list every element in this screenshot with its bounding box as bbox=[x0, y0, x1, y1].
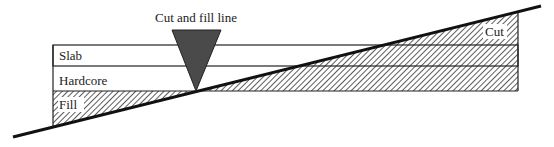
slab-label: Slab bbox=[59, 48, 82, 63]
hardcore-label: Hardcore bbox=[59, 73, 108, 88]
cut-fill-line-label: Cut and fill line bbox=[155, 10, 237, 25]
fill-label: Fill bbox=[59, 97, 77, 112]
cut-and-fill-diagram: Cut and fill line Slab Hardcore Fill Cut bbox=[0, 0, 554, 147]
cut-label: Cut bbox=[485, 24, 504, 39]
cut-fill-marker-icon bbox=[172, 30, 221, 91]
